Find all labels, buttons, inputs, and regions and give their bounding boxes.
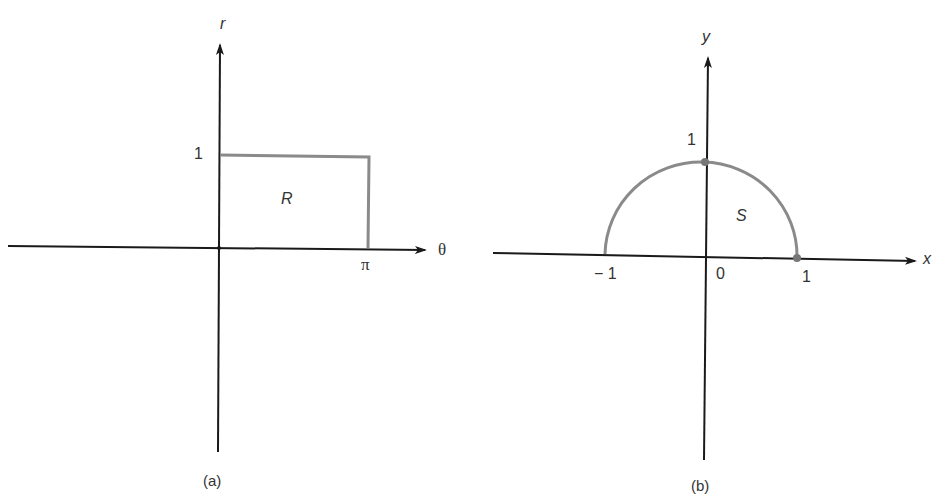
caption-a: (a)	[203, 472, 221, 489]
tick-label-y-1: 1	[687, 131, 696, 149]
tick-label-pi: π	[361, 255, 370, 275]
tick-label-x-1: 1	[802, 268, 811, 286]
caption-b: (b)	[691, 477, 709, 494]
region-label-r: R	[281, 190, 293, 208]
r-axis-label: r	[220, 15, 225, 33]
x-axis-label: x	[923, 250, 931, 268]
y-axis-label: y	[702, 28, 710, 46]
theta-axis-label: θ	[438, 240, 446, 260]
tick-label-origin: 0	[716, 265, 725, 283]
region-label-s: S	[736, 207, 747, 225]
tick-label-x-neg1: − 1	[594, 265, 617, 283]
tick-label-r-1: 1	[194, 145, 203, 163]
